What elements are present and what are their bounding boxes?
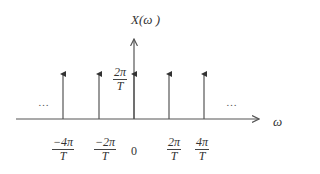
tick-zero: 0 bbox=[131, 144, 137, 159]
x-axis-label: ω bbox=[273, 114, 282, 130]
height-denominator: T bbox=[117, 80, 124, 93]
impulse-height-label: 2π T bbox=[113, 66, 127, 93]
y-axis-label: X(ω ) bbox=[131, 12, 160, 28]
tick-minus-4pi: −4π T bbox=[52, 136, 74, 163]
tick-plus-4pi: 4π T bbox=[195, 136, 209, 163]
ellipsis-left: … bbox=[38, 96, 50, 108]
height-numerator: 2π bbox=[113, 66, 127, 80]
tick-minus-2pi: −2π T bbox=[94, 136, 116, 163]
tick-plus-2pi: 2π T bbox=[167, 136, 181, 163]
ellipsis-right: … bbox=[226, 96, 238, 108]
